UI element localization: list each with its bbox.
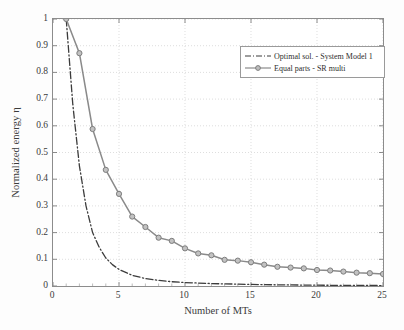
y-tick-label: 0.4 xyxy=(26,173,48,183)
y-tick-label: 1 xyxy=(26,13,48,23)
y-tick-label: 0.5 xyxy=(26,147,48,157)
data-point-marker xyxy=(169,238,174,243)
data-point-marker xyxy=(288,265,293,270)
data-point-marker xyxy=(314,267,319,272)
data-point-marker xyxy=(341,269,346,274)
data-point-marker xyxy=(143,224,148,229)
y-tick-label: 0.2 xyxy=(26,227,48,237)
y-axis-ticks: 00.10.20.30.40.50.60.70.80.91 xyxy=(24,0,48,330)
y-tick-label: 0 xyxy=(26,280,48,290)
y-tick-label: 0.6 xyxy=(26,120,48,130)
data-point-marker xyxy=(209,253,214,258)
y-tick-label: 0.9 xyxy=(26,40,48,50)
x-tick-label: 10 xyxy=(169,290,199,300)
data-point-marker xyxy=(103,167,108,172)
legend-swatch-dashdot-icon xyxy=(244,50,272,62)
data-point-marker xyxy=(275,264,280,269)
data-point-marker xyxy=(235,258,240,263)
x-axis-label: Number of MTs xyxy=(52,305,384,316)
data-point-marker xyxy=(130,214,135,219)
y-tick-label: 0.7 xyxy=(26,93,48,103)
data-point-marker xyxy=(262,262,267,267)
data-point-marker xyxy=(380,271,383,276)
x-tick-label: 20 xyxy=(301,290,331,300)
data-point-marker xyxy=(354,270,359,275)
legend-label-optimal: Optimal sol. - System Model 1 xyxy=(272,52,373,61)
y-tick-label: 0.1 xyxy=(26,253,48,263)
data-point-marker xyxy=(156,235,161,240)
x-tick-label: 25 xyxy=(367,290,397,300)
legend-label-equal-parts: Equal parts - SR multi xyxy=(272,64,346,73)
y-tick-label: 0.3 xyxy=(26,200,48,210)
y-tick-label: 0.8 xyxy=(26,66,48,76)
legend-swatch-solid-circle-icon xyxy=(244,62,272,74)
data-point-marker xyxy=(248,260,253,265)
data-point-marker xyxy=(116,191,121,196)
data-point-marker xyxy=(77,51,82,56)
data-point-marker xyxy=(196,251,201,256)
data-point-marker xyxy=(367,271,372,276)
x-axis-ticks: 0510152025 xyxy=(0,290,404,304)
x-tick-label: 0 xyxy=(37,290,67,300)
chart-legend: Optimal sol. - System Model 1 Equal part… xyxy=(240,46,385,78)
data-point-marker xyxy=(328,268,333,273)
x-tick-label: 5 xyxy=(103,290,133,300)
data-point-marker xyxy=(64,19,69,22)
data-point-marker xyxy=(182,246,187,251)
legend-item-optimal: Optimal sol. - System Model 1 xyxy=(244,50,380,62)
data-point-marker xyxy=(301,266,306,271)
chart-figure: Normalized energy η 00.10.20.30.40.50.60… xyxy=(0,0,404,330)
x-tick-label: 15 xyxy=(235,290,265,300)
legend-item-equal-parts: Equal parts - SR multi xyxy=(244,62,380,74)
data-point-marker xyxy=(90,126,95,131)
data-point-marker xyxy=(222,257,227,262)
